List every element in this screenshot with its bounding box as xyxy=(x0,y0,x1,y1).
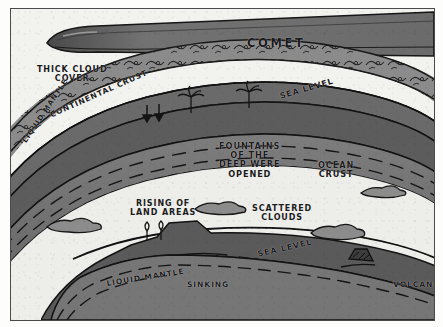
diagram-artwork xyxy=(11,9,434,320)
illustration-figure: COMET THICK CLOUD COVER SEA LEVEL CONTIN… xyxy=(0,0,443,327)
diagram-svg xyxy=(11,9,434,320)
picture-frame: COMET THICK CLOUD COVER SEA LEVEL CONTIN… xyxy=(10,8,435,321)
